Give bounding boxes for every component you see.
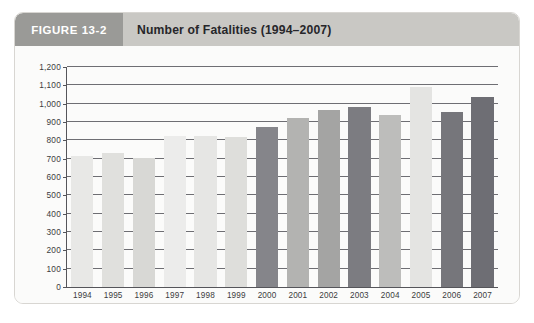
x-axis-tick-label: 2006	[442, 291, 461, 300]
y-axis-tick-label: 800	[47, 135, 61, 145]
bar[interactable]: 1995	[102, 153, 124, 287]
y-axis-tick-label: 1,100	[39, 80, 61, 90]
y-axis-tick-label: 100	[47, 264, 61, 274]
bar-slot: 2001	[282, 67, 313, 287]
bar-slot: 1997	[159, 67, 190, 287]
x-axis-tick-label: 2005	[412, 291, 431, 300]
x-axis-tick-label: 2000	[258, 291, 277, 300]
bar[interactable]: 1996	[133, 158, 155, 287]
x-axis-tick-label: 2004	[381, 291, 400, 300]
bar-slot: 2004	[375, 67, 406, 287]
figure-title-band: Number of Fatalities (1994–2007)	[123, 13, 519, 46]
bar-slot: 1994	[67, 67, 98, 287]
figure-title: Number of Fatalities (1994–2007)	[137, 23, 331, 37]
y-axis-tick-label: 600	[47, 172, 61, 182]
bar[interactable]: 2000	[256, 127, 278, 287]
y-axis-tick-label: 200	[47, 245, 61, 255]
bar[interactable]: 2007	[471, 97, 493, 287]
y-axis-tick-label: 500	[47, 190, 61, 200]
y-axis-tick-label: 400	[47, 209, 61, 219]
x-axis-tick-label: 1998	[196, 291, 215, 300]
bar[interactable]: 1997	[164, 136, 186, 287]
bar[interactable]: 2004	[379, 115, 401, 287]
bar[interactable]: 1994	[71, 156, 93, 287]
x-axis-tick-label: 1999	[227, 291, 246, 300]
bar-slot: 2007	[467, 67, 498, 287]
x-axis-tick-label: 2003	[350, 291, 369, 300]
bar-slot: 2002	[313, 67, 344, 287]
figure-number-label: FIGURE 13-2	[31, 24, 107, 36]
bar[interactable]: 2006	[441, 112, 463, 287]
y-axis-tick-mark	[63, 287, 67, 288]
bar[interactable]: 2002	[318, 110, 340, 287]
bar[interactable]: 2001	[287, 118, 309, 287]
y-axis-tick-label: 700	[47, 154, 61, 164]
bar-slot: 2000	[252, 67, 283, 287]
chart-body: 01002003004005006007008009001,0001,1001,…	[15, 46, 519, 303]
figure-header: FIGURE 13-2 Number of Fatalities (1994–2…	[15, 13, 519, 46]
y-axis-tick-label: 0	[56, 282, 61, 292]
bar-series: 1994199519961997199819992000200120022003…	[67, 67, 498, 287]
bar-slot: 2006	[436, 67, 467, 287]
x-axis-tick-label: 2002	[319, 291, 338, 300]
x-axis-tick-label: 2007	[473, 291, 492, 300]
bar[interactable]: 1999	[225, 137, 247, 287]
y-axis-tick-label: 900	[47, 117, 61, 127]
x-axis-tick-label: 1994	[73, 291, 92, 300]
bar-slot: 1999	[221, 67, 252, 287]
bar[interactable]: 2005	[410, 87, 432, 287]
figure-card: FIGURE 13-2 Number of Fatalities (1994–2…	[14, 12, 520, 304]
bar-slot: 1998	[190, 67, 221, 287]
y-axis-tick-label: 1,200	[39, 62, 61, 72]
bar[interactable]: 1998	[194, 136, 216, 287]
bar-slot: 1995	[98, 67, 129, 287]
bar-slot: 2003	[344, 67, 375, 287]
y-axis-tick-label: 300	[47, 227, 61, 237]
x-axis-tick-label: 2001	[288, 291, 307, 300]
bar-slot: 1996	[129, 67, 160, 287]
y-axis-tick-label: 1,000	[39, 99, 61, 109]
bar-slot: 2005	[406, 67, 437, 287]
figure-number-badge: FIGURE 13-2	[15, 13, 123, 46]
plot-area: 01002003004005006007008009001,0001,1001,…	[66, 67, 498, 288]
bar[interactable]: 2003	[348, 107, 370, 287]
x-axis-tick-label: 1997	[165, 291, 184, 300]
x-axis-tick-label: 1995	[104, 291, 123, 300]
x-axis-tick-label: 1996	[135, 291, 154, 300]
